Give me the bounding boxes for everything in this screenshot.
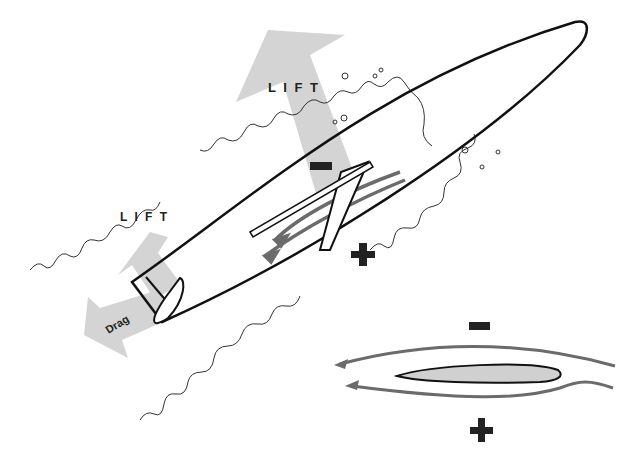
lift-label-large: L I F T [268,80,320,95]
airfoil-upper-flow [340,346,615,366]
lift-label-small: L I F T [120,210,169,224]
plus-sign-fin [351,243,375,266]
airfoil-lower-flow [352,382,613,397]
minus-sign-foil [469,322,490,330]
airfoil-cross-section [334,322,615,442]
diagram-canvas: L I F T L I F T Drag [0,0,632,460]
plus-sign-foil [470,418,493,442]
water-wake [30,68,500,420]
minus-sign-fin [310,162,332,170]
airfoil [397,365,561,383]
